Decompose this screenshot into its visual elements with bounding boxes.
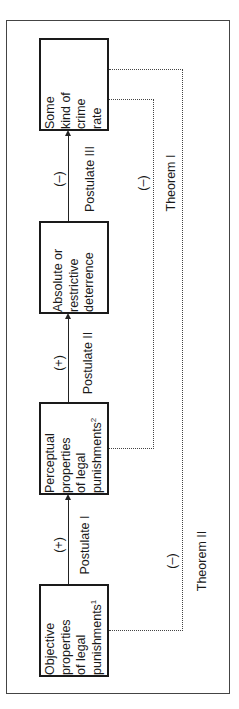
edge-postulate-3-line <box>68 136 69 221</box>
arrowhead-icon <box>65 494 71 500</box>
node-label: Some kind of crime rate <box>43 41 105 129</box>
node-label: Objective properties of legal punishment… <box>43 587 105 675</box>
edge-label-postulate-3: Postulate III <box>83 139 97 219</box>
footnote-marker: 2 <box>88 417 97 421</box>
edge-sign-theorem-2: (–) <box>165 546 179 576</box>
footnote-marker: 1 <box>88 599 97 603</box>
edge-sign-postulate-1: (+) <box>52 530 66 560</box>
node-objective-properties: Objective properties of legal punishment… <box>39 584 109 677</box>
node-perceptual-properties: Perceptual properties of legal punishmen… <box>39 402 109 495</box>
edge-label-theorem-2: Theorem II <box>195 523 209 599</box>
edge-sign-theorem-1: (–) <box>136 168 150 198</box>
edge-label-postulate-2: Postulate II <box>81 325 95 401</box>
node-crime-rate: Some kind of crime rate <box>39 38 109 131</box>
node-deterrence: Absolute or restrictive deterrence <box>39 221 109 314</box>
edge-theorem-1-line <box>153 99 154 449</box>
edge-label-theorem-1: Theorem I <box>164 148 178 218</box>
edge-theorem-2-line <box>182 69 183 631</box>
edge-label-postulate-1: Postulate I <box>78 510 92 580</box>
edge-theorem-2-line <box>109 630 183 631</box>
edge-theorem-2-line <box>109 69 183 70</box>
node-label: Perceptual properties of legal punishmen… <box>43 405 105 493</box>
edge-sign-postulate-2: (+) <box>52 348 66 378</box>
node-label: Absolute or restrictive deterrence <box>51 224 98 312</box>
edge-postulate-2-line <box>68 319 69 402</box>
edge-postulate-1-line <box>68 500 69 584</box>
arrowhead-icon <box>65 130 71 136</box>
edge-theorem-1-line <box>109 99 154 100</box>
edge-theorem-1-line <box>109 448 154 449</box>
edge-sign-postulate-3: (–) <box>52 164 66 194</box>
arrowhead-icon <box>65 313 71 319</box>
